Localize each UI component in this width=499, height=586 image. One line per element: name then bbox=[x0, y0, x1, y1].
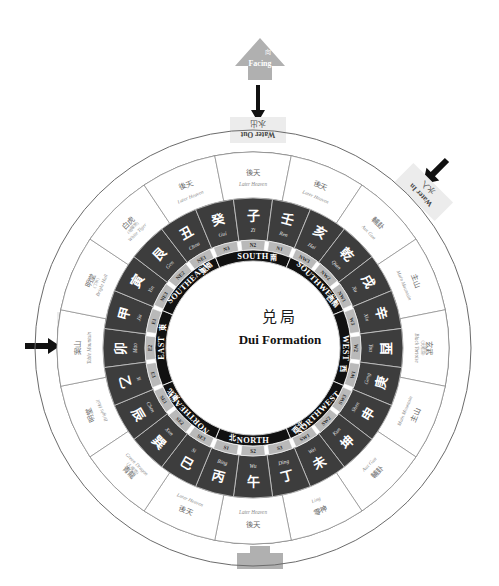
subsector-label: N2 bbox=[250, 242, 257, 248]
cardinal-han: 北 bbox=[229, 433, 236, 442]
cardinal-han: 西 bbox=[339, 365, 347, 372]
mountain-pinyin: Mao bbox=[132, 343, 138, 354]
outer-sector-label: Later Heaven bbox=[238, 181, 267, 187]
mountain-han: 酉 bbox=[379, 342, 394, 355]
water-in-left-arrow bbox=[25, 338, 60, 354]
mountain-pinyin: Zi bbox=[251, 227, 256, 233]
outer-sector-sub: (天曜煞) bbox=[420, 341, 427, 356]
subsector-label: E2 bbox=[147, 345, 153, 351]
outer-sector-label: Table Mountain bbox=[86, 331, 92, 364]
water-out-arrow bbox=[251, 85, 265, 122]
mountain-han: 子 bbox=[247, 208, 260, 223]
facing-label: Facing bbox=[248, 59, 271, 68]
outer-sector-label: Later Heaven bbox=[238, 509, 267, 515]
feng-shui-compass-diagram: 向 Facing Water Out 水出 Water In 水入 Water … bbox=[0, 0, 499, 586]
mountain-han: 午 bbox=[247, 474, 260, 489]
mountain-pinyin: You bbox=[368, 344, 374, 352]
water-out-label: Water Out bbox=[240, 130, 275, 139]
compass-svg: 向 Facing Water Out 水出 Water In 水入 Water … bbox=[0, 0, 499, 586]
mountain-pinyin: Wu bbox=[250, 463, 257, 469]
center-title-han: 兑局 bbox=[262, 309, 298, 325]
cardinal-label: NORTH bbox=[237, 436, 270, 445]
cardinal-label: SOUTH bbox=[237, 252, 268, 261]
facing-marker: 向 Facing bbox=[235, 38, 285, 80]
center-title-en: Dui Formation bbox=[239, 332, 322, 347]
water-out-arrow-shape bbox=[251, 85, 265, 122]
mountain-han: 卯 bbox=[113, 342, 128, 355]
center-disc bbox=[166, 261, 340, 435]
cardinal-label: WEST bbox=[341, 335, 350, 361]
water-out-han: 水出 bbox=[250, 119, 266, 129]
base-neck bbox=[250, 546, 270, 556]
outer-sector-han: 後天 bbox=[246, 168, 261, 177]
compass-rings: 明堂Bright Hall案山Table Mountain明堂Bright Ha… bbox=[35, 130, 471, 566]
outer-sector-han: 案山 bbox=[73, 341, 82, 355]
outer-sector-han: 後天 bbox=[246, 520, 261, 529]
subsector-label: W2 bbox=[353, 344, 359, 352]
cardinal-han: 東 bbox=[158, 323, 167, 331]
facing-han: 向 bbox=[265, 48, 271, 55]
outer-sector-label: Black Tortoise bbox=[414, 333, 420, 363]
cardinal-han: 南 bbox=[270, 253, 277, 262]
cardinal-label: EAST bbox=[157, 336, 166, 359]
subsector-label: S2 bbox=[250, 448, 256, 454]
water-in-left-arrow-shape bbox=[25, 338, 60, 354]
